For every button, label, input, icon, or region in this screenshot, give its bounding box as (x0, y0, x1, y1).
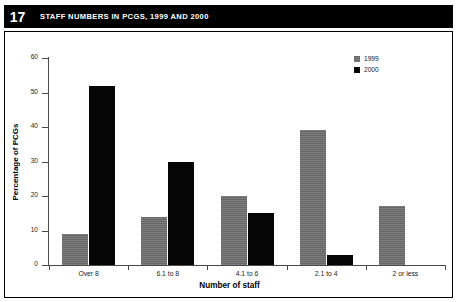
figure-title-bar: STAFF NUMBERS IN PCGS, 1999 AND 2000 (31, 5, 453, 28)
x-axis-label-4.1-to-6: 4.1 to 6 (207, 270, 287, 277)
y-axis-tick: 0 (42, 265, 48, 266)
figure-title: STAFF NUMBERS IN PCGS, 1999 AND 2000 (40, 12, 209, 21)
bar-1999-2-or-less (379, 206, 405, 265)
y-axis-title-text: Percentage of PCGs (11, 92, 20, 232)
y-axis-tick-label: 30 (31, 157, 38, 164)
y-axis-tick-label: 10 (31, 226, 38, 233)
figure-header: 17 STAFF NUMBERS IN PCGS, 1999 AND 2000 (4, 5, 453, 28)
y-axis-tick-label: 50 (31, 88, 38, 95)
y-axis-tick-label: 60 (31, 53, 38, 60)
legend-label-2000: 2000 (364, 67, 379, 74)
bar-1999-over-8 (62, 234, 88, 265)
legend-item-1999[interactable]: 1999 (354, 54, 379, 64)
bar-2000-over-8 (89, 86, 115, 265)
x-axis-label-2.1-to-4: 2.1 to 4 (286, 270, 366, 277)
y-axis-tick-label: 40 (31, 122, 38, 129)
figure-container: 17 STAFF NUMBERS IN PCGS, 1999 AND 2000 … (0, 0, 457, 302)
x-axis-line (48, 265, 446, 266)
y-axis-title: Percentage of PCGs (11, 0, 20, 92)
y-axis-tick-label: 20 (31, 191, 38, 198)
y-axis-tick: 60 (42, 58, 48, 59)
bar-2000-2.1-to-4 (327, 255, 353, 265)
legend-item-2000[interactable]: 2000 (354, 65, 379, 75)
y-axis-tick: 20 (42, 196, 48, 197)
legend-swatch-1999 (354, 56, 360, 62)
bar-1999-2.1-to-4 (300, 130, 326, 265)
y-axis-tick-label: 0 (34, 260, 38, 267)
plot-area (49, 58, 445, 265)
x-axis-label-over-8: Over 8 (49, 270, 129, 277)
y-axis-tick: 50 (42, 93, 48, 94)
x-axis-title: Number of staff (5, 281, 454, 290)
x-axis-label-2-or-less: 2 or less (365, 270, 445, 277)
y-axis-tick: 30 (42, 162, 48, 163)
bar-2000-4.1-to-6 (248, 213, 274, 265)
y-axis-tick: 10 (42, 231, 48, 232)
legend-label-1999: 1999 (364, 56, 379, 63)
chart-legend: 19992000 (354, 54, 379, 76)
bar-1999-4.1-to-6 (221, 196, 247, 265)
chart-frame: Percentage of PCGs 0102030405060 Over 86… (4, 31, 453, 298)
y-axis-tick: 40 (42, 127, 48, 128)
bar-1999-6.1-to-8 (141, 217, 167, 265)
bar-2000-6.1-to-8 (168, 162, 194, 266)
x-axis-label-6.1-to-8: 6.1 to 8 (128, 270, 208, 277)
legend-swatch-2000 (354, 67, 360, 73)
